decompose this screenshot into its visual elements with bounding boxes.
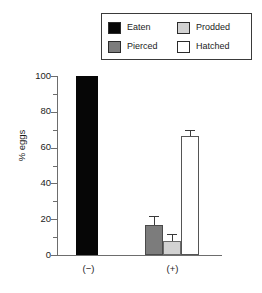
error-bar-prodded	[172, 235, 173, 240]
bars-container	[57, 70, 222, 255]
legend-row: Eaten Prodded	[108, 18, 246, 37]
chart-legend: Eaten Prodded Pierced Hatched	[101, 13, 252, 60]
x-tick-label-minus: (−)	[66, 264, 111, 274]
legend-row: Pierced Hatched	[108, 37, 246, 56]
bar-hatched-plus[interactable]	[181, 136, 199, 255]
error-cap-prodded	[167, 234, 177, 235]
y-tick-label: 40	[40, 178, 51, 188]
legend-label-eaten: Eaten	[127, 23, 151, 32]
error-bar-hatched	[190, 131, 191, 136]
error-bar-pierced	[154, 217, 155, 224]
legend-label-prodded: Prodded	[196, 23, 230, 32]
y-tick-major	[51, 255, 57, 256]
legend-entry-prodded: Prodded	[177, 22, 246, 34]
y-tick-label: 20	[40, 214, 51, 224]
y-tick-label: 80	[40, 106, 51, 116]
bar-chart-figure: Eaten Prodded Pierced Hatched % eggs 100…	[0, 0, 262, 293]
y-tick-label: 60	[40, 142, 51, 152]
dark-gray-swatch-icon	[108, 41, 121, 53]
error-cap-pierced	[149, 216, 159, 217]
y-axis-tick-labels: 100 80 60 40 20 0	[18, 70, 51, 255]
legend-entry-pierced: Pierced	[108, 41, 177, 53]
legend-label-hatched: Hatched	[196, 42, 230, 51]
y-tick-label: 100	[35, 71, 51, 81]
light-gray-swatch-icon	[177, 22, 190, 34]
x-tick-label-plus: (+)	[150, 264, 195, 274]
x-axis-line	[57, 255, 222, 256]
plot-area	[57, 70, 222, 255]
legend-entry-eaten: Eaten	[108, 22, 177, 34]
bar-pierced-plus[interactable]	[145, 225, 163, 255]
legend-entry-hatched: Hatched	[177, 41, 246, 53]
error-cap-hatched	[185, 130, 195, 131]
black-swatch-icon	[108, 22, 121, 34]
bar-prodded-plus[interactable]	[163, 241, 181, 255]
bar-eaten-minus[interactable]	[76, 76, 98, 255]
legend-label-pierced: Pierced	[127, 42, 158, 51]
white-swatch-icon	[177, 41, 190, 53]
